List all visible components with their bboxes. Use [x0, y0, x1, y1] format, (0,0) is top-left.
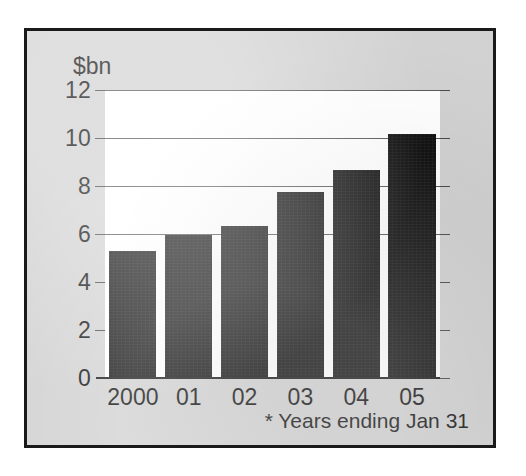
- chart-panel: $bn 02468101220000102030405 * Years endi…: [24, 28, 496, 448]
- plot-area: 02468101220000102030405: [105, 90, 440, 378]
- y-axis-tick: [95, 234, 105, 235]
- y-axis-tick-right: [440, 138, 450, 139]
- x-axis-tick-label: 02: [232, 384, 258, 411]
- y-axis-tick-label: 12: [65, 77, 91, 104]
- x-axis-tick-label: 04: [343, 384, 369, 411]
- bar: [109, 251, 156, 378]
- y-axis-tick-right: [440, 186, 450, 187]
- y-axis-tick-right: [440, 234, 450, 235]
- y-axis-tick-label: 2: [78, 317, 91, 344]
- x-axis-tick-label: 05: [399, 384, 425, 411]
- y-axis-tick-right: [440, 330, 450, 331]
- y-axis-tick: [95, 90, 105, 91]
- x-axis-tick-label: 03: [288, 384, 314, 411]
- x-axis-tick-label: 01: [176, 384, 202, 411]
- x-axis-tick-label: 2000: [107, 384, 158, 411]
- chart-figure: $bn 02468101220000102030405 * Years endi…: [0, 0, 526, 476]
- bar: [333, 170, 380, 378]
- bar: [221, 226, 268, 378]
- gridline: [105, 90, 440, 91]
- y-axis-tick: [95, 330, 105, 331]
- bar: [388, 134, 435, 378]
- y-axis-tick: [95, 138, 105, 139]
- bar: [165, 235, 212, 378]
- chart-footnote: * Years ending Jan 31: [265, 409, 469, 433]
- y-axis-tick-label: 0: [78, 365, 91, 392]
- y-axis-tick-right: [440, 282, 450, 283]
- y-axis-tick-label: 4: [78, 269, 91, 296]
- y-axis-tick: [95, 186, 105, 187]
- y-axis-tick-label: 10: [65, 125, 91, 152]
- y-axis-tick-right: [440, 378, 450, 379]
- y-axis-tick: [95, 282, 105, 283]
- y-axis-tick-label: 6: [78, 221, 91, 248]
- y-axis-tick-right: [440, 90, 450, 91]
- y-axis-tick-label: 8: [78, 173, 91, 200]
- bar: [277, 192, 324, 378]
